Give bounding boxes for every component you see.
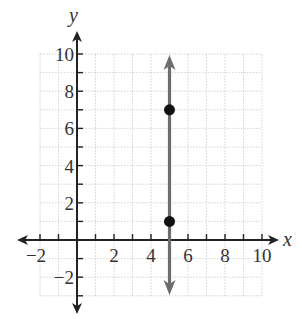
plotted-series: [164, 55, 176, 295]
x-tick-label: −2: [26, 245, 46, 266]
y-tick-label: 8: [65, 81, 75, 102]
data-point: [164, 104, 175, 115]
x-tick-label: 2: [109, 245, 119, 266]
y-tick-label: −2: [54, 267, 74, 288]
coordinate-graph: −2246810−2246810 x y: [0, 0, 302, 319]
data-point: [164, 216, 175, 227]
x-tick-label: 4: [146, 245, 156, 266]
tick-labels: −2246810−2246810: [26, 44, 272, 288]
x-tick-label: 8: [220, 245, 230, 266]
x-axis-label: x: [282, 228, 292, 250]
x-tick-label: 6: [183, 245, 193, 266]
y-tick-label: 2: [65, 193, 75, 214]
y-tick-label: 6: [65, 118, 75, 139]
y-tick-label: 4: [65, 156, 75, 177]
y-axis-label: y: [67, 4, 78, 27]
y-tick-label: 10: [55, 44, 74, 65]
x-tick-label: 10: [253, 245, 272, 266]
